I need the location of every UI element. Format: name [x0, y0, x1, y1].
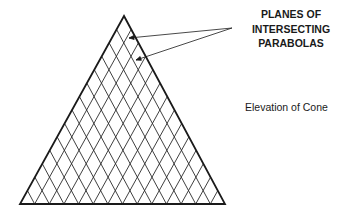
- callout-line-3: PARABOLAS: [232, 36, 350, 51]
- callout-label: PLANES OF INTERSECTING PARABOLAS: [232, 7, 350, 51]
- diagram-title: Elevation of Cone: [245, 101, 328, 113]
- callout-line-1: PLANES OF: [232, 7, 350, 22]
- callout-line-2: INTERSECTING: [232, 22, 350, 37]
